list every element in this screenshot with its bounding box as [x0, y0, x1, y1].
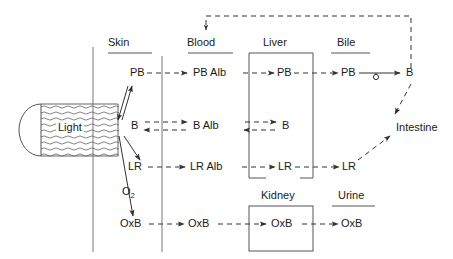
compartment-header-urine: Urine [338, 190, 364, 201]
arrow-bilelr-to-intestine [358, 136, 390, 160]
light-source-semicircle [19, 104, 41, 156]
node-blood-pb-alb: PB Alb [193, 67, 226, 78]
compartment-header-liver: Liver [263, 37, 287, 48]
node-liver-b: B [282, 120, 289, 131]
node-liver-pb: PB [277, 67, 292, 78]
node-skin-pb: PB [130, 67, 145, 78]
node-skin-b: B [131, 120, 138, 131]
node-liver-lr: LR [278, 161, 292, 172]
node-oxygen: O2 [122, 186, 135, 200]
node-bile-lr: LR [342, 161, 356, 172]
node-gut-b: B [406, 67, 413, 78]
compartment-header-blood: Blood [187, 37, 215, 48]
node-blood-oxb: OxB [188, 218, 209, 229]
compartment-header-kidney: Kidney [261, 190, 295, 201]
node-intestine: Intestine [396, 122, 438, 133]
node-skin-oxb: OxB [120, 218, 141, 229]
oxygen-subscript: 2 [131, 191, 135, 200]
arrow-skinb-to-skinoxb [119, 136, 133, 216]
node-kidney-oxb: OxB [271, 218, 292, 229]
diagram-canvas: Skin Blood Liver Bile Kidney Urine Light… [0, 0, 453, 259]
node-blood-b-alb: B Alb [193, 120, 219, 131]
arrow-skinb-to-skinlr [124, 136, 140, 160]
compartment-header-bile: Bile [337, 37, 355, 48]
node-light: Light [56, 122, 84, 133]
node-skin-lr: LR [128, 161, 142, 172]
node-blood-lr-alb: LR Alb [190, 161, 222, 172]
conjugation-circle-marker [373, 74, 378, 79]
node-bile-pb: PB [341, 67, 356, 78]
arrow-gutb-to-intestine [395, 84, 411, 114]
compartment-header-skin: Skin [108, 37, 129, 48]
arrow-enterohepatic-recirculation [206, 16, 411, 68]
node-urine-oxb: OxB [341, 218, 362, 229]
oxygen-symbol: O [122, 185, 131, 197]
